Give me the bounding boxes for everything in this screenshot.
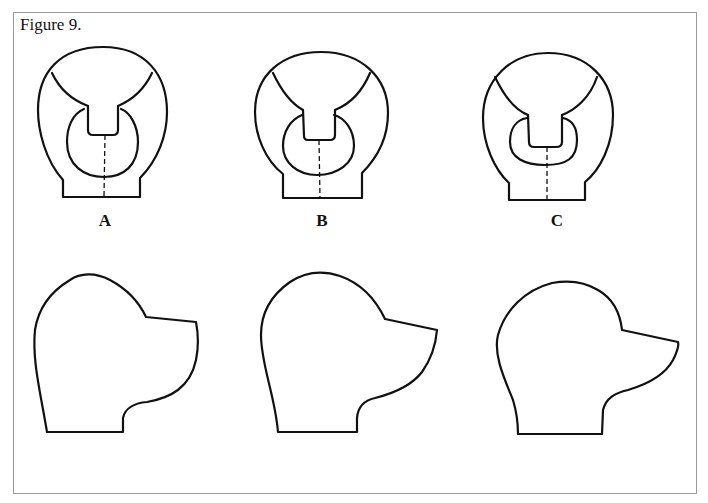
stem xyxy=(303,110,335,140)
figure-drawing xyxy=(0,0,708,503)
label-b: B xyxy=(316,211,327,231)
center-line xyxy=(319,140,320,198)
upper-arc xyxy=(52,73,152,106)
outer-head-outline xyxy=(483,53,613,200)
inner-loop xyxy=(510,118,577,165)
label-c: C xyxy=(551,211,563,231)
label-a: A xyxy=(99,211,111,231)
stem xyxy=(528,115,562,147)
center-line xyxy=(104,135,105,197)
front-view-a xyxy=(38,47,167,197)
inner-loop xyxy=(67,109,138,177)
outer-head-outline xyxy=(255,52,388,198)
front-view-c xyxy=(483,53,613,200)
stem xyxy=(88,106,118,135)
upper-arc xyxy=(273,73,370,110)
side-view-2 xyxy=(261,273,437,432)
upper-arc xyxy=(495,77,597,115)
outer-head-outline xyxy=(38,47,167,197)
side-view-3 xyxy=(497,282,679,434)
side-view-1 xyxy=(34,274,198,432)
front-view-b xyxy=(255,52,388,198)
